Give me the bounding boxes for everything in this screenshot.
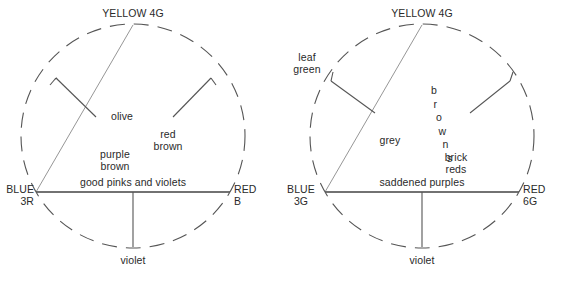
left-chord-tick bbox=[331, 72, 333, 81]
region-label-violet: violet bbox=[392, 255, 452, 267]
triangle-sides bbox=[325, 25, 519, 192]
left-chord bbox=[56, 78, 96, 117]
region-label-good-pinks-and-violets: good pinks and violets bbox=[53, 177, 213, 189]
vertex-label-blue: BLUE bbox=[0, 184, 34, 196]
vertex-label-blue-sub: 3R bbox=[0, 196, 34, 208]
vertex-label-red: RED bbox=[523, 184, 565, 196]
region-label-purple-brown: purplebrown bbox=[86, 149, 144, 172]
browns-letter: w bbox=[439, 126, 447, 137]
region-label-grey: grey bbox=[366, 135, 414, 147]
vertex-label-blue-sub: 3G bbox=[280, 196, 322, 208]
vertex-label-yellow: YELLOW 4G bbox=[372, 8, 472, 20]
left-colour-triangle: YELLOW 4G BLUE 3R RED B olive redbrown p… bbox=[0, 0, 285, 281]
vertex-label-red-sub: 6G bbox=[523, 196, 565, 208]
left-chord bbox=[331, 81, 375, 113]
vertex-label-red-sub: B bbox=[234, 196, 274, 208]
right-chord-tick bbox=[510, 72, 513, 81]
left-chord-tick bbox=[50, 78, 56, 85]
vertex-label-red: RED bbox=[234, 184, 274, 196]
figure-canvas: YELLOW 4G BLUE 3R RED B olive redbrown p… bbox=[0, 0, 571, 281]
vertex-label-blue: BLUE bbox=[280, 184, 322, 196]
right-chord bbox=[173, 78, 211, 117]
browns-letter: n bbox=[443, 139, 449, 150]
region-label-leaf-green: leafgreen bbox=[283, 52, 331, 75]
right-colour-triangle: YELLOW 4G BLUE 3G RED 6G leafgreen grey … bbox=[285, 0, 570, 281]
region-label-olive: olive bbox=[92, 111, 152, 123]
vertex-label-yellow: YELLOW 4G bbox=[83, 8, 183, 20]
right-diagram-graphics bbox=[285, 0, 570, 281]
region-label-brick-reds: brickreds bbox=[432, 152, 480, 175]
browns-letter: b bbox=[431, 85, 437, 96]
browns-letter: o bbox=[436, 112, 442, 123]
region-label-red-brown: redbrown bbox=[141, 129, 195, 152]
region-label-saddened-purples: saddened purples bbox=[358, 177, 486, 189]
right-chord-tick bbox=[211, 78, 216, 85]
browns-letter: r bbox=[434, 99, 438, 110]
region-label-violet: violet bbox=[103, 255, 163, 267]
right-chord bbox=[470, 81, 510, 113]
